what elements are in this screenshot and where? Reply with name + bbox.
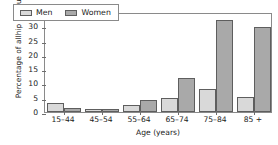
- bars-layer: [45, 14, 271, 112]
- bar-men-5: [237, 97, 254, 112]
- bar-group: [123, 14, 157, 112]
- legend-entry-women: Women: [65, 8, 110, 17]
- x-axis-title: Age (years): [44, 128, 272, 137]
- x-tick-label: 45–54: [89, 115, 112, 124]
- y-tick-label: 0: [24, 109, 38, 117]
- x-tick-label: 85 +: [244, 115, 262, 124]
- bar-women-5: [254, 27, 271, 112]
- plot-area: [44, 13, 272, 113]
- y-tick-mark: [42, 57, 46, 58]
- bar-women-4: [216, 20, 233, 112]
- y-tick-mark: [42, 100, 46, 101]
- y-tick-label: 20: [24, 52, 38, 60]
- x-tick-label: 55–64: [127, 115, 150, 124]
- bar-group: [199, 14, 233, 112]
- legend-label: Men: [36, 8, 52, 17]
- bar-men-1: [85, 109, 102, 112]
- bar-women-3: [178, 78, 195, 112]
- y-tick-label: 5: [24, 95, 38, 103]
- y-tick-mark: [42, 43, 46, 44]
- y-tick-mark: [42, 28, 46, 29]
- bar-women-0: [64, 108, 81, 112]
- legend-swatch-icon-women: [65, 10, 77, 16]
- legend-entry-men: Men: [20, 8, 52, 17]
- bar-group: [85, 14, 119, 112]
- y-tick-mark: [42, 85, 46, 86]
- bar-men-2: [123, 105, 140, 112]
- hip-fracture-bar-chart: Percentage of all hip fractures 05101520…: [0, 0, 278, 145]
- bar-group: [237, 14, 271, 112]
- bar-group: [161, 14, 195, 112]
- legend-label: Women: [81, 8, 110, 17]
- y-tick-label: 25: [24, 38, 38, 46]
- y-tick-mark: [42, 71, 46, 72]
- y-axis-tick-labels: 05101520253035: [22, 0, 38, 145]
- x-tick-label: 65–74: [165, 115, 188, 124]
- bar-women-2: [140, 100, 157, 112]
- bar-group: [47, 14, 81, 112]
- y-tick-label: 10: [24, 80, 38, 88]
- x-tick-label: 15–44: [51, 115, 74, 124]
- bar-men-4: [199, 89, 216, 112]
- x-tick-label: 75–84: [203, 115, 226, 124]
- legend-swatch-icon-men: [20, 10, 32, 16]
- bar-men-3: [161, 98, 178, 112]
- bar-women-1: [102, 109, 119, 112]
- chart-legend: MenWomen: [13, 4, 119, 21]
- y-tick-label: 15: [24, 66, 38, 74]
- y-tick-label: 30: [24, 23, 38, 31]
- x-axis-tick-labels: 15–4445–5455–6465–7475–8485 +: [44, 115, 272, 127]
- bar-men-0: [47, 103, 64, 112]
